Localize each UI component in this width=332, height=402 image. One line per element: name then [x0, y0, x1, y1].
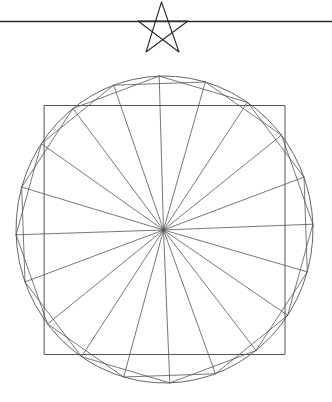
- chord-line: [159, 76, 247, 102]
- radial-line: [164, 230, 288, 315]
- chord-line: [170, 351, 256, 383]
- radial-line: [159, 76, 163, 230]
- chord-line: [41, 85, 113, 143]
- chord-line: [205, 82, 281, 135]
- chord-line: [16, 144, 41, 235]
- chord-line: [215, 315, 287, 373]
- chord-line: [82, 357, 170, 383]
- chord-line: [248, 102, 305, 177]
- radial-line: [41, 144, 163, 230]
- radial-line: [82, 230, 164, 357]
- chord-line: [288, 224, 313, 315]
- geometric-construction-figure: [0, 0, 332, 402]
- chord-line: [22, 109, 73, 188]
- radial-line: [164, 230, 216, 374]
- radial-line: [164, 230, 257, 351]
- radial-line: [164, 230, 308, 272]
- chord-line: [256, 272, 307, 351]
- radial-lines-group: [16, 76, 313, 383]
- radial-line: [164, 102, 248, 230]
- radial-line: [164, 135, 282, 230]
- radial-line: [16, 230, 163, 235]
- radial-line: [73, 109, 164, 231]
- radial-line: [164, 82, 206, 230]
- radial-line: [164, 177, 305, 230]
- chord-line: [73, 76, 159, 108]
- pentagram-star-icon: [138, 2, 188, 52]
- radial-line: [114, 85, 164, 230]
- radial-line: [22, 187, 164, 230]
- chord-line: [16, 235, 47, 324]
- chord-line: [48, 324, 124, 377]
- chord-line: [282, 135, 313, 224]
- radial-line: [164, 224, 313, 230]
- chord-line: [25, 282, 82, 357]
- radial-line: [164, 230, 170, 383]
- radial-line: [48, 230, 164, 324]
- radial-line: [25, 230, 164, 282]
